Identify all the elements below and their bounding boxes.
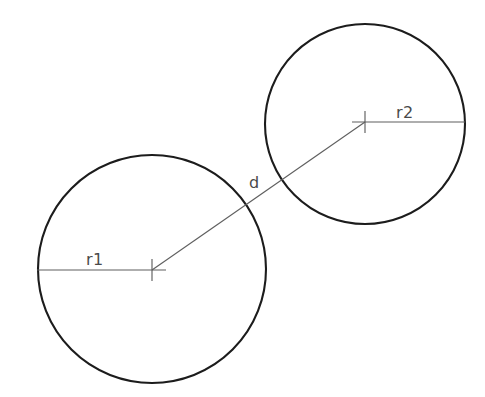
circles-distance-diagram: r1 r2 d (0, 0, 485, 397)
diagram-canvas: r1 r2 d (0, 0, 485, 397)
distance-label: d (249, 173, 260, 192)
left-radius-label: r1 (86, 250, 104, 269)
right-radius-label: r2 (396, 103, 414, 122)
distance-line (152, 122, 365, 270)
